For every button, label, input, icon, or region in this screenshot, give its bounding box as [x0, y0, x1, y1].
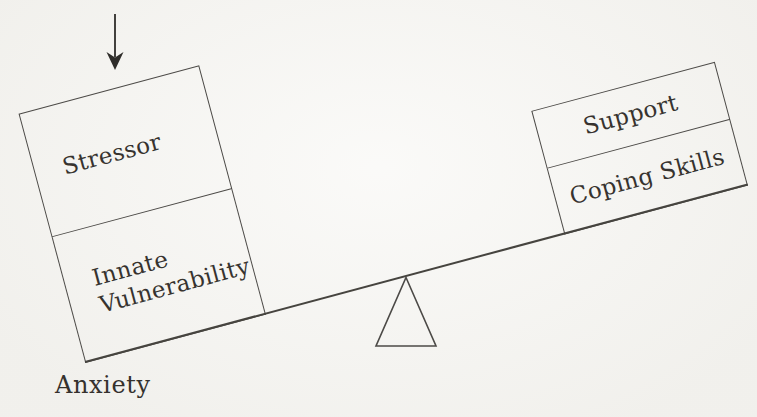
anxiety-caption: Anxiety	[55, 371, 151, 399]
innate-vulnerability-label: Innate Vulnerability	[89, 225, 255, 318]
stressor-label: Stressor	[60, 129, 165, 181]
fulcrum-triangle-icon	[374, 276, 438, 348]
down-arrow-icon	[102, 12, 128, 72]
support-label: Support	[580, 90, 681, 141]
balance-diagram: Stressor Innate Vulnerability Support Co…	[0, 0, 757, 417]
